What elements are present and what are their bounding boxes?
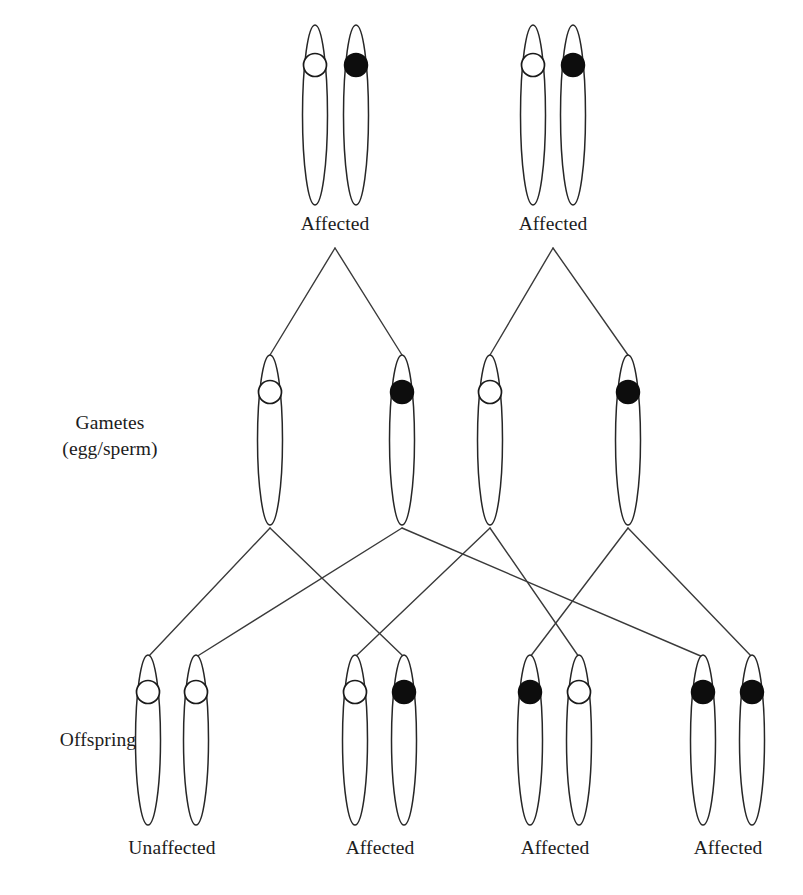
allele-marker-open-icon [259, 381, 282, 404]
parent-0-chromosome-1-body [344, 25, 369, 205]
gamete-to-offspring-link-6 [530, 528, 628, 657]
allele-marker-open-icon [137, 681, 160, 704]
offspring-row-label: Offspring [60, 727, 136, 753]
gametes-row-label-line2: (egg/sperm) [62, 436, 157, 462]
allele-marker-open-icon [344, 681, 367, 704]
offspring-0-chromosome-1 [184, 655, 209, 825]
gamete-to-offspring-link-5 [490, 528, 579, 657]
allele-marker-filled-icon [692, 681, 715, 704]
connector-lines-layer [148, 248, 752, 657]
gamete-chromosome-0 [258, 355, 283, 525]
parent-1-chromosome-1-body [561, 25, 586, 205]
gamete-to-offspring-link-1 [270, 528, 404, 657]
inheritance-diagram: Gametes (egg/sperm) Offspring AffectedAf… [0, 0, 803, 895]
allele-marker-filled-icon [741, 681, 764, 704]
offspring-1-chromosome-0 [343, 655, 368, 825]
offspring-1-status-label: Affected [346, 837, 415, 859]
offspring-2-status-label: Affected [521, 837, 590, 859]
gamete-to-offspring-link-0 [148, 528, 270, 657]
gamete-to-offspring-link-4 [355, 528, 490, 657]
parent-to-gamete-link-1 [335, 248, 402, 355]
gamete-to-offspring-link-2 [196, 528, 402, 657]
allele-marker-filled-icon [393, 681, 416, 704]
offspring-3-chromosome-1 [740, 655, 765, 825]
parent-to-gamete-link-2 [490, 248, 553, 355]
gamete-chromosome-2 [478, 355, 503, 525]
parent-0-status-label: Affected [301, 213, 370, 235]
gamete-to-offspring-link [148, 528, 752, 657]
offspring-0-chromosome-0 [136, 655, 161, 825]
parent-1-status-label: Affected [519, 213, 588, 235]
parent-1-chromosome-1 [561, 25, 586, 205]
allele-marker-open-icon [522, 54, 545, 77]
allele-marker-filled-icon [617, 381, 640, 404]
gamete-to-offspring-link-3 [402, 528, 703, 657]
parent-0-chromosome-1 [344, 25, 369, 205]
allele-marker-open-icon [568, 681, 591, 704]
allele-marker-filled-icon [391, 381, 414, 404]
allele-marker-open-icon [479, 381, 502, 404]
parent-0-chromosome-0 [303, 25, 328, 205]
allele-marker-filled-icon [519, 681, 542, 704]
gamete-chromosome-3 [616, 355, 641, 525]
gamete-chromosome-1 [390, 355, 415, 525]
offspring-3-status-label: Affected [694, 837, 763, 859]
allele-marker-filled-icon [562, 54, 585, 77]
parent-to-gamete-link-0 [270, 248, 335, 355]
parent-1-chromosome-0-body [521, 25, 546, 205]
offspring-2-chromosome-1 [567, 655, 592, 825]
allele-marker-open-icon [304, 54, 327, 77]
offspring-1-chromosome-1 [392, 655, 417, 825]
allele-marker-open-icon [185, 681, 208, 704]
allele-marker-filled-icon [345, 54, 368, 77]
offspring-3-chromosome-0 [691, 655, 716, 825]
gametes-row-label-line1: Gametes [62, 410, 157, 436]
parent-to-gamete-link-3 [553, 248, 628, 355]
gametes-row-label: Gametes (egg/sperm) [62, 410, 157, 461]
parent-1-chromosome-0 [521, 25, 546, 205]
offspring-2-chromosome-0 [518, 655, 543, 825]
gamete-to-offspring-link-7 [628, 528, 752, 657]
offspring-0-status-label: Unaffected [128, 837, 215, 859]
parent-to-gamete-link [270, 248, 628, 355]
chromosomes-layer [136, 25, 765, 825]
parent-0-chromosome-0-body [303, 25, 328, 205]
